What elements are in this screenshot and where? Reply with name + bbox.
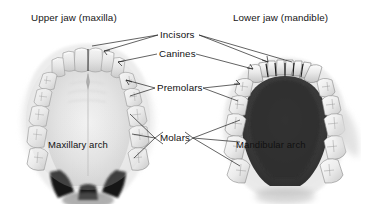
label-mandibular-arch: Mandibular arch	[236, 140, 306, 150]
label-premolars: Premolars	[157, 83, 203, 93]
label-canines: Canines	[159, 49, 196, 59]
title-lower-jaw: Lower jaw (mandible)	[233, 13, 328, 23]
title-upper-jaw: Upper jaw (maxilla)	[31, 13, 117, 23]
dental-anatomy-figure: Upper jaw (maxilla) Lower jaw (mandible)…	[0, 0, 374, 204]
label-incisors: Incisors	[160, 30, 195, 40]
label-molars: Molars	[160, 133, 190, 143]
label-maxillary-arch: Maxillary arch	[48, 140, 108, 150]
maxillary-arch-illustration	[22, 44, 154, 204]
mandibular-arch-illustration	[223, 58, 359, 204]
